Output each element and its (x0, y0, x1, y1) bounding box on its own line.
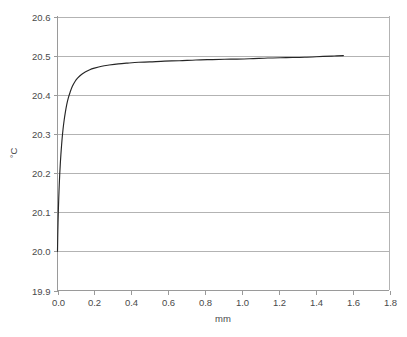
y-tick-label: 20.1 (32, 207, 51, 218)
x-tick-label: 0.4 (125, 297, 138, 308)
y-tick-label: 20.2 (32, 168, 51, 179)
x-axis-tick-marks (59, 291, 391, 295)
y-tick-label: 20.4 (32, 90, 51, 101)
y-tick-label: 20.0 (32, 246, 51, 257)
x-tick-label: 0.2 (88, 297, 101, 308)
x-axis-tick-labels: 0.00.20.40.60.81.01.21.41.61.8 (52, 297, 397, 308)
x-axis-title: mm (215, 313, 231, 324)
y-tick-label: 20.5 (32, 51, 51, 62)
x-tick-label: 0.0 (52, 297, 65, 308)
y-tick-label: 19.9 (32, 286, 51, 297)
y-tick-label: 20.3 (32, 129, 51, 140)
y-axis-title: °C (8, 148, 19, 159)
x-tick-label: 0.8 (199, 297, 212, 308)
x-tick-label: 1.0 (236, 297, 249, 308)
y-tick-label: 20.6 (32, 12, 51, 23)
plot-area-background (57, 16, 389, 290)
x-tick-label: 1.8 (384, 297, 397, 308)
x-tick-label: 1.4 (310, 297, 323, 308)
y-axis-tick-labels: 19.920.020.120.220.320.420.520.6 (32, 12, 51, 297)
chart-container: 19.920.020.120.220.320.420.520.6 0.00.20… (0, 0, 407, 337)
line-chart: 19.920.020.120.220.320.420.520.6 0.00.20… (0, 0, 407, 337)
x-tick-label: 1.6 (347, 297, 360, 308)
x-tick-label: 0.6 (162, 297, 175, 308)
x-tick-label: 1.2 (273, 297, 286, 308)
y-axis-tick-marks (54, 18, 58, 292)
